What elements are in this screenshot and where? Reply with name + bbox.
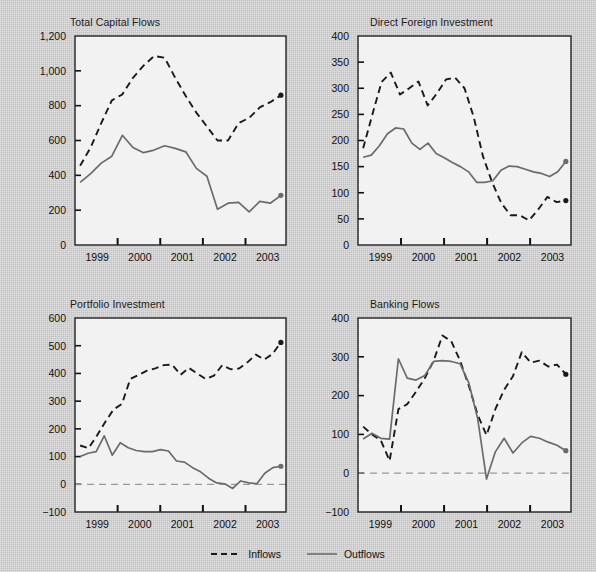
svg-text:1999: 1999 [369, 251, 393, 263]
svg-text:1999: 1999 [85, 251, 109, 263]
svg-text:400: 400 [331, 312, 349, 324]
legend-outflows: Outflows [307, 548, 385, 560]
svg-text:800: 800 [48, 99, 66, 111]
legend-label: Inflows [248, 548, 281, 560]
plot-area: −100010020030040050060019992000200120022… [0, 290, 296, 540]
svg-text:1999: 1999 [369, 518, 393, 530]
svg-text:1999: 1999 [85, 518, 109, 530]
svg-text:400: 400 [48, 367, 66, 379]
svg-text:350: 350 [331, 56, 349, 68]
panel-portfolio-investment: Portfolio Investment Billions of U.S. $ … [0, 290, 296, 540]
svg-text:2000: 2000 [128, 251, 152, 263]
legend-inflows: Inflows [211, 548, 281, 560]
svg-text:2001: 2001 [455, 251, 479, 263]
svg-text:400: 400 [48, 169, 66, 181]
legend-solid-swatch [307, 550, 337, 558]
panel-grid: Total Capital Flows Billions of U.S. $ 0… [0, 0, 596, 540]
svg-text:150: 150 [331, 160, 349, 172]
svg-text:500: 500 [48, 340, 66, 352]
panel-total-capital-flows: Total Capital Flows Billions of U.S. $ 0… [0, 0, 296, 290]
panel-banking-flows: Banking Flows Billions of U.S. $ −100010… [296, 290, 596, 540]
chart-legend: Inflows Outflows [0, 548, 596, 560]
svg-text:50: 50 [337, 213, 349, 225]
svg-text:200: 200 [48, 423, 66, 435]
svg-text:2003: 2003 [541, 518, 565, 530]
svg-text:0: 0 [60, 478, 66, 490]
svg-text:1,200: 1,200 [40, 30, 66, 42]
svg-text:300: 300 [331, 82, 349, 94]
svg-text:2002: 2002 [498, 251, 522, 263]
svg-text:400: 400 [331, 30, 349, 42]
legend-label: Outflows [344, 548, 385, 560]
svg-text:2000: 2000 [412, 251, 436, 263]
svg-text:1,000: 1,000 [40, 65, 66, 77]
svg-text:−100: −100 [325, 506, 349, 518]
panel-direct-foreign-investment: Direct Foreign Investment Billions of U.… [296, 0, 596, 290]
svg-text:100: 100 [331, 187, 349, 199]
svg-text:2002: 2002 [498, 518, 522, 530]
svg-text:2002: 2002 [213, 251, 237, 263]
svg-text:600: 600 [48, 312, 66, 324]
svg-text:0: 0 [60, 239, 66, 251]
svg-text:200: 200 [48, 204, 66, 216]
svg-text:200: 200 [331, 389, 349, 401]
svg-text:2003: 2003 [541, 251, 565, 263]
svg-text:−100: −100 [42, 506, 66, 518]
svg-text:2001: 2001 [455, 518, 479, 530]
svg-text:300: 300 [48, 395, 66, 407]
svg-text:600: 600 [48, 134, 66, 146]
legend-dashed-swatch [211, 550, 241, 558]
figure-canvas: Total Capital Flows Billions of U.S. $ 0… [0, 0, 596, 572]
svg-text:250: 250 [331, 108, 349, 120]
svg-text:100: 100 [331, 428, 349, 440]
plot-area: −100010020030040019992000200120022003 [296, 290, 596, 540]
svg-text:2001: 2001 [171, 251, 195, 263]
svg-text:0: 0 [343, 239, 349, 251]
svg-text:200: 200 [331, 134, 349, 146]
svg-text:2000: 2000 [412, 518, 436, 530]
plot-area: 0501001502002503003504001999200020012002… [296, 0, 596, 290]
svg-text:0: 0 [343, 467, 349, 479]
svg-text:2001: 2001 [171, 518, 195, 530]
svg-text:100: 100 [48, 450, 66, 462]
svg-text:2003: 2003 [256, 251, 280, 263]
svg-text:300: 300 [331, 351, 349, 363]
plot-area: 02004006008001,0001,20019992000200120022… [0, 0, 296, 290]
svg-text:2000: 2000 [128, 518, 152, 530]
svg-text:2003: 2003 [256, 518, 280, 530]
svg-text:2002: 2002 [213, 518, 237, 530]
